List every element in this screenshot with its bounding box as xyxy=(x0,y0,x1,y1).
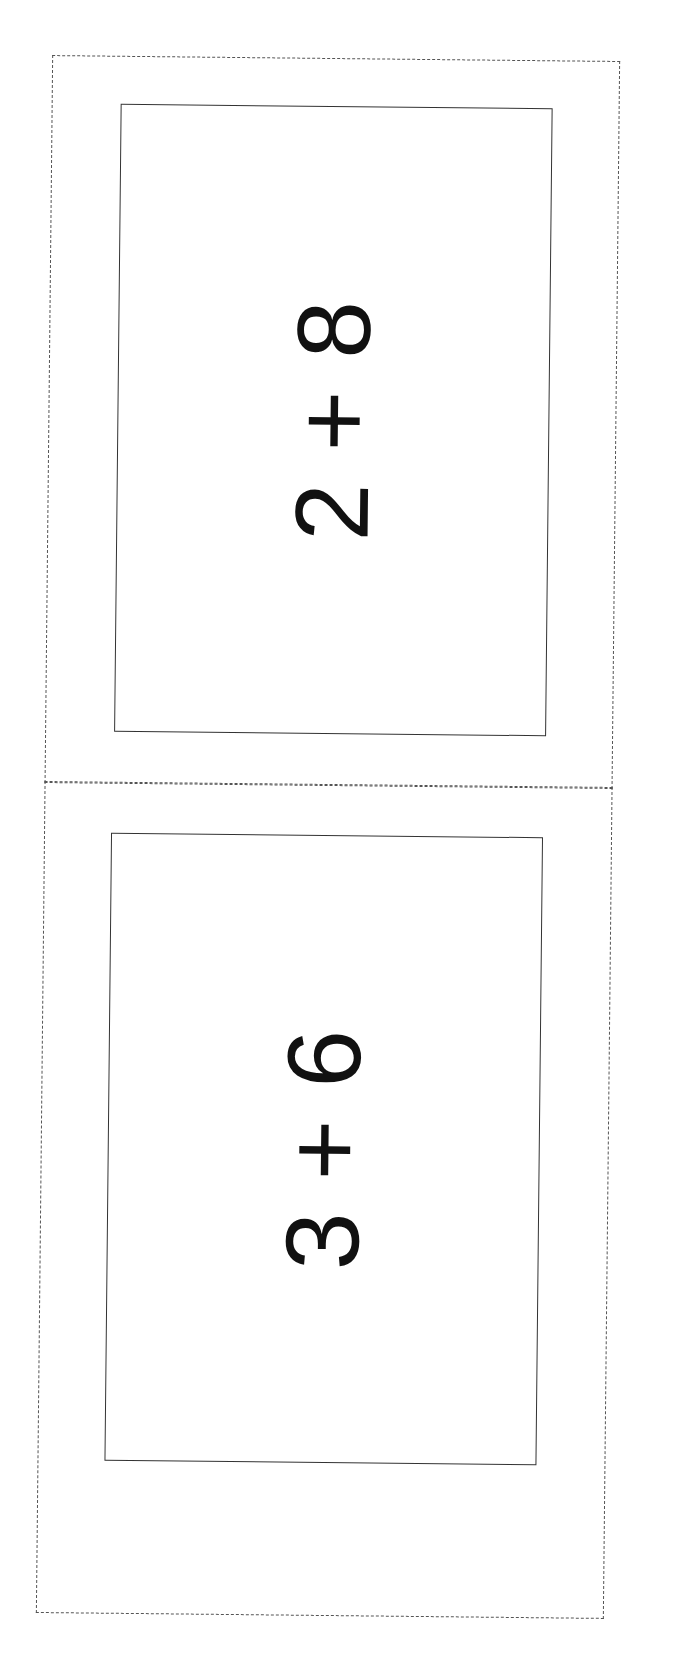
card-cell-2: 3 + 6 xyxy=(36,781,613,1619)
math-expression-1: 2 + 8 xyxy=(273,298,395,542)
card-cell-1: 2 + 8 xyxy=(45,55,621,789)
right-operand: 8 xyxy=(275,298,395,359)
operator: + xyxy=(274,388,394,452)
operator: + xyxy=(264,1117,384,1181)
left-operand: 2 xyxy=(273,481,393,542)
flashcard-2: 3 + 6 xyxy=(104,833,543,1465)
math-expression-2: 3 + 6 xyxy=(263,1027,385,1271)
flashcard-sheet: 2 + 8 3 + 6 xyxy=(36,55,622,1619)
right-operand: 6 xyxy=(265,1027,385,1088)
left-operand: 3 xyxy=(263,1210,383,1271)
flashcard-1: 2 + 8 xyxy=(114,104,553,736)
